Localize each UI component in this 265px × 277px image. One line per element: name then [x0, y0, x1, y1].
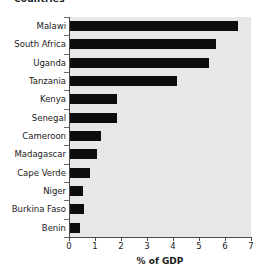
bar-row: Cape Verde	[0, 164, 265, 182]
y-axis-tick	[64, 72, 69, 73]
bar-row: Cameroon	[0, 127, 265, 145]
bar	[70, 39, 216, 49]
bar	[70, 76, 177, 86]
bar	[70, 21, 238, 31]
x-axis-tick-label: 0	[66, 242, 71, 251]
bar-row: Niger	[0, 182, 265, 200]
x-axis-tick-label: 2	[118, 242, 123, 251]
y-axis-tick	[64, 127, 69, 128]
bar	[70, 168, 90, 178]
x-axis-tick-label: 7	[248, 242, 253, 251]
x-axis-tick-label: 4	[170, 242, 175, 251]
x-axis-tick-label: 1	[92, 242, 97, 251]
y-axis-tick	[64, 90, 69, 91]
category-label: Senegal	[32, 114, 66, 123]
bar-row: Burkina Faso	[0, 200, 265, 218]
y-axis-tick	[64, 219, 69, 220]
y-axis-tick	[64, 17, 69, 18]
y-axis-tick	[64, 145, 69, 146]
category-label: Kenya	[40, 95, 66, 104]
bar-row: Madagascar	[0, 145, 265, 163]
category-label: Tanzania	[29, 77, 66, 86]
y-axis-tick	[64, 164, 69, 165]
bar	[70, 204, 84, 214]
category-label: South Africa	[14, 40, 66, 49]
bar-row: Kenya	[0, 90, 265, 108]
category-label: Niger	[43, 187, 66, 196]
category-label: Uganda	[33, 59, 66, 68]
bar	[70, 94, 117, 104]
y-axis-tick	[64, 54, 69, 55]
category-label: Madagascar	[14, 150, 66, 159]
x-axis-title: % of GDP	[137, 256, 184, 266]
category-label: Cameroon	[22, 132, 66, 141]
category-label: Burkina Faso	[12, 205, 66, 214]
bar-row: Malawi	[0, 17, 265, 35]
y-axis-tick	[64, 182, 69, 183]
x-axis-tick-label: 6	[222, 242, 227, 251]
y-axis-tick	[64, 35, 69, 36]
bar-row: Uganda	[0, 54, 265, 72]
bar-row: Benin	[0, 219, 265, 237]
bar	[70, 149, 97, 159]
x-axis-tick-label: 5	[196, 242, 201, 251]
category-label: Malawi	[37, 22, 66, 31]
category-label: Cape Verde	[17, 169, 66, 178]
bar-row: Senegal	[0, 109, 265, 127]
x-axis-tick-label: 3	[144, 242, 149, 251]
y-axis-tick	[64, 237, 69, 238]
bar	[70, 113, 117, 123]
bar	[70, 58, 209, 68]
y-axis-tick	[64, 109, 69, 110]
bar-row: Tanzania	[0, 72, 265, 90]
bar-chart: MalawiSouth AfricaUgandaTanzaniaKenyaSen…	[0, 0, 265, 277]
category-label: Benin	[42, 224, 66, 233]
y-axis-tick	[64, 200, 69, 201]
bar-row: South Africa	[0, 35, 265, 53]
bar	[70, 131, 101, 141]
bar	[70, 223, 80, 233]
bar	[70, 186, 83, 196]
